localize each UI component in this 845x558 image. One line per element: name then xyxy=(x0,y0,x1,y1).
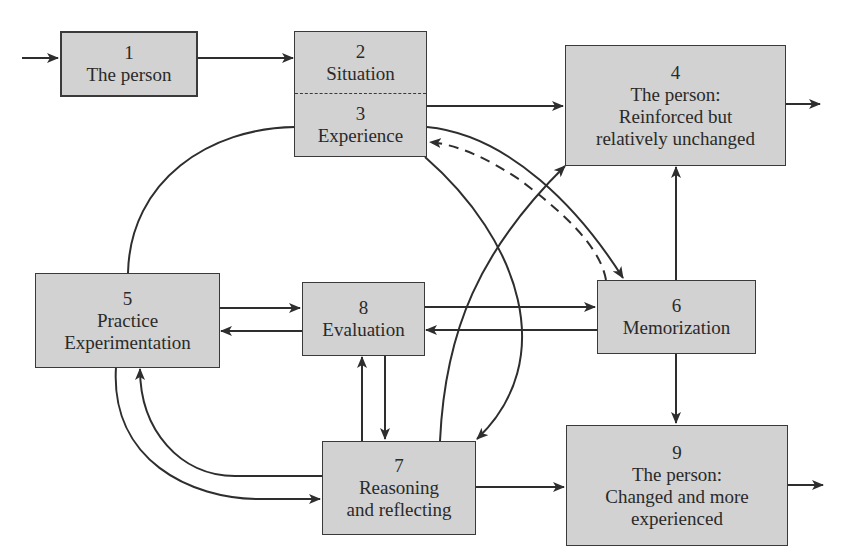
curve-5-to-7 xyxy=(116,367,320,499)
curve-7-to-4 xyxy=(440,166,565,441)
node-label-line-2: Experimentation xyxy=(64,332,191,354)
node-2-3-situation-experience: 2 Situation 3 Experience xyxy=(294,31,427,157)
node-label-line-2: Reinforced but xyxy=(619,106,732,128)
node-label-line-2: and reflecting xyxy=(347,499,452,521)
node-label-line-3: experienced xyxy=(631,508,723,530)
node-7-reasoning-reflecting: 7 Reasoning and reflecting xyxy=(322,441,476,535)
curve-3-to-7 xyxy=(425,157,522,439)
node-label-line-2: Changed and more xyxy=(605,486,749,508)
node-number: 3 xyxy=(356,103,366,125)
node-number: 7 xyxy=(394,455,404,477)
node-label: The person xyxy=(87,64,172,86)
node-number: 8 xyxy=(359,297,369,319)
node-1-the-person: 1 The person xyxy=(60,31,198,97)
node-4-person-reinforced: 4 The person: Reinforced but relatively … xyxy=(565,45,786,166)
node-2-situation: 2 Situation xyxy=(295,32,426,94)
node-number: 1 xyxy=(124,42,134,64)
node-label-line-1: The person: xyxy=(630,84,720,106)
node-label-line-1: Practice xyxy=(97,310,158,332)
node-6-memorization: 6 Memorization xyxy=(597,280,756,354)
node-8-evaluation: 8 Evaluation xyxy=(302,282,425,356)
learning-cycle-diagram: 1 The person 2 Situation 3 Experience 4 … xyxy=(0,0,845,558)
node-label-line-1: Reasoning xyxy=(359,477,439,499)
node-label: Evaluation xyxy=(322,319,404,341)
node-label: Situation xyxy=(326,63,395,85)
node-label: Memorization xyxy=(623,317,731,339)
node-number: 4 xyxy=(671,62,681,84)
node-9-person-changed: 9 The person: Changed and more experienc… xyxy=(566,425,788,546)
node-label-line-3: relatively unchanged xyxy=(596,128,755,150)
curve-3-to-5 xyxy=(128,127,295,273)
node-label-line-1: The person: xyxy=(632,464,722,486)
node-label: Experience xyxy=(318,125,403,147)
node-number: 5 xyxy=(123,288,133,310)
node-number: 9 xyxy=(672,442,682,464)
curve-7-to-5 xyxy=(140,369,322,476)
node-5-practice-experimentation: 5 Practice Experimentation xyxy=(35,273,220,368)
node-3-experience: 3 Experience xyxy=(295,94,426,156)
node-number: 6 xyxy=(672,295,682,317)
node-number: 2 xyxy=(356,41,366,63)
